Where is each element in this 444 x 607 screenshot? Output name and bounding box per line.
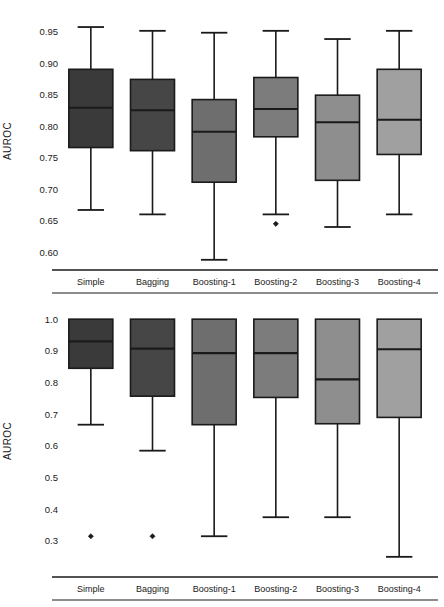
- y-tick-label: 0.5: [45, 472, 58, 483]
- box-rect: [316, 95, 360, 180]
- x-category-label: Simple: [77, 584, 105, 594]
- boxplot-box: [377, 31, 421, 215]
- x-category-label: Boosting-2: [254, 277, 297, 287]
- x-category-label: Bagging: [136, 277, 169, 287]
- y-axis-label-top: AUROC: [2, 122, 13, 160]
- box-rect: [377, 319, 421, 417]
- box-rect: [192, 319, 236, 425]
- box-rect: [131, 79, 175, 150]
- box-rect: [69, 319, 113, 368]
- top-panel: AUROC 0.600.650.700.750.800.850.900.95Si…: [0, 0, 444, 300]
- x-category-label: Boosting-1: [193, 584, 236, 594]
- boxplot-figure: AUROC 0.600.650.700.750.800.850.900.95Si…: [0, 0, 444, 607]
- y-tick-label: 0.80: [40, 121, 59, 132]
- bottom-boxplot-svg: 0.30.40.50.60.70.80.91.0SimpleBaggingBoo…: [0, 300, 444, 607]
- y-tick-label: 0.4: [45, 504, 58, 515]
- y-tick-label: 0.6: [45, 440, 58, 451]
- x-category-label: Boosting-3: [316, 277, 359, 287]
- boxplot-box: [316, 39, 360, 227]
- y-tick-label: 0.75: [40, 152, 59, 163]
- x-category-label: Simple: [77, 277, 105, 287]
- outlier-marker: [88, 534, 93, 539]
- boxplot-box: [192, 33, 236, 260]
- boxplot-box: [254, 319, 298, 517]
- box-rect: [192, 100, 236, 183]
- y-tick-label: 0.9: [45, 345, 58, 356]
- x-category-label: Bagging: [136, 584, 169, 594]
- x-category-label: Boosting-1: [193, 277, 236, 287]
- bottom-panel: AUROC 0.30.40.50.60.70.80.91.0SimpleBagg…: [0, 300, 444, 607]
- x-category-label: Boosting-3: [316, 584, 359, 594]
- boxplot-box: [254, 31, 298, 227]
- boxplot-box: [131, 31, 175, 215]
- y-tick-label: 0.7: [45, 409, 58, 420]
- y-tick-label: 0.65: [40, 215, 59, 226]
- box-rect: [254, 319, 298, 397]
- boxplot-box: [316, 319, 360, 517]
- outlier-marker: [273, 221, 278, 226]
- boxplot-box: [131, 319, 175, 539]
- x-category-label: Boosting-4: [378, 584, 421, 594]
- box-rect: [131, 319, 175, 396]
- boxplot-box: [69, 27, 113, 210]
- y-tick-label: 0.85: [40, 89, 59, 100]
- box-rect: [377, 69, 421, 154]
- y-axis-label-bottom: AUROC: [2, 422, 13, 460]
- y-tick-label: 0.8: [45, 377, 58, 388]
- x-category-label: Boosting-4: [378, 277, 421, 287]
- boxplot-box: [69, 319, 113, 539]
- boxplot-box: [192, 319, 236, 536]
- boxplot-box: [377, 319, 421, 557]
- y-tick-label: 0.95: [40, 26, 59, 37]
- y-tick-label: 0.3: [45, 535, 58, 546]
- outlier-marker: [150, 534, 155, 539]
- y-tick-label: 0.60: [40, 247, 59, 258]
- box-rect: [254, 78, 298, 137]
- y-tick-label: 0.90: [40, 58, 59, 69]
- y-tick-label: 1.0: [45, 314, 58, 325]
- box-rect: [316, 319, 360, 424]
- x-category-label: Boosting-2: [254, 584, 297, 594]
- top-boxplot-svg: 0.600.650.700.750.800.850.900.95SimpleBa…: [0, 0, 444, 300]
- y-tick-label: 0.70: [40, 184, 59, 195]
